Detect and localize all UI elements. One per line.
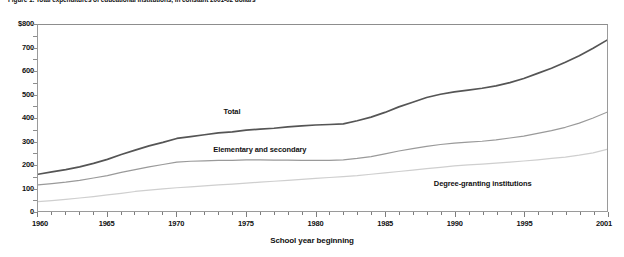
x-axis-tick-minor — [538, 212, 539, 215]
x-axis-tick-label: 1990 — [447, 219, 463, 228]
x-axis-tick-minor — [51, 212, 52, 215]
x-axis-tick-minor — [93, 212, 94, 215]
x-axis-tick-minor — [483, 212, 484, 215]
x-axis-tick-minor — [218, 212, 219, 215]
y-axis-tick-label: 500 — [0, 91, 34, 99]
x-axis-tick-minor — [274, 212, 275, 215]
x-axis-tick-major — [107, 212, 108, 217]
y-axis-tick-label: 300 — [0, 138, 34, 146]
y-axis-tick-label: 400 — [0, 114, 34, 122]
x-axis-tick-minor — [288, 212, 289, 215]
x-axis-tick-minor — [190, 212, 191, 215]
y-axis-tick-label: 0 — [0, 208, 34, 216]
x-axis-tick-label: 1970 — [168, 219, 184, 228]
x-axis-tick-minor — [497, 212, 498, 215]
x-axis-tick-major — [37, 212, 38, 217]
figure-container: Figure 1. Total expenditures of educatio… — [0, 0, 624, 257]
x-axis-tick-minor — [121, 212, 122, 215]
x-axis-tick-minor — [232, 212, 233, 215]
x-axis-tick-minor — [204, 212, 205, 215]
series-label: Total — [224, 107, 241, 116]
x-axis-tick-label: 1965 — [99, 219, 115, 228]
x-axis-tick-major — [455, 212, 456, 217]
x-axis-tick-label: 1995 — [516, 219, 532, 228]
figure-caption: Figure 1. Total expenditures of educatio… — [8, 0, 255, 4]
x-axis-tick-minor — [343, 212, 344, 215]
x-axis-tick-label: 1980 — [308, 219, 324, 228]
x-axis-tick-minor — [162, 212, 163, 215]
x-axis-tick-minor — [469, 212, 470, 215]
x-axis-tick-minor — [511, 212, 512, 215]
series-line — [38, 40, 607, 174]
y-axis-tick-label: 700 — [0, 44, 34, 52]
series-line — [38, 149, 607, 201]
series-line — [38, 112, 607, 185]
x-axis-tick-minor — [302, 212, 303, 215]
x-axis-tick-label: 2001 — [596, 219, 612, 228]
x-axis-tick-label: 1975 — [238, 219, 254, 228]
y-axis-tick-label: 100 — [0, 185, 34, 193]
x-axis-tick-major — [176, 212, 177, 217]
x-axis-tick-minor — [79, 212, 80, 215]
x-axis-tick-minor — [148, 212, 149, 215]
x-axis-tick-label: 1985 — [377, 219, 393, 228]
x-axis-tick-minor — [552, 212, 553, 215]
y-axis-tick-label: 600 — [0, 67, 34, 75]
x-axis-tick-minor — [329, 212, 330, 215]
x-axis-tick-major — [246, 212, 247, 217]
y-axis-tick-label: $800 — [0, 20, 34, 28]
x-axis-tick-major — [608, 212, 609, 217]
x-axis-tick-major — [385, 212, 386, 217]
x-axis-tick-minor — [427, 212, 428, 215]
x-axis-tick-minor — [580, 212, 581, 215]
x-axis-tick-minor — [566, 212, 567, 215]
x-axis-tick-minor — [594, 212, 595, 215]
x-axis-tick-minor — [371, 212, 372, 215]
series-label: Degree-granting institutions — [434, 179, 532, 188]
x-axis-tick-minor — [134, 212, 135, 215]
x-axis-tick-label: 1960 — [32, 219, 48, 228]
x-axis-tick-minor — [260, 212, 261, 215]
y-axis-labels: $8007006005004003002001000 — [0, 0, 34, 257]
x-axis-title: School year beginning — [0, 236, 624, 245]
y-axis-tick-label: 200 — [0, 161, 34, 169]
x-axis-tick-major — [316, 212, 317, 217]
x-axis-tick-minor — [357, 212, 358, 215]
x-axis-tick-major — [524, 212, 525, 217]
series-label: Elementary and secondary — [213, 145, 306, 154]
x-axis-tick-minor — [65, 212, 66, 215]
x-axis-tick-minor — [441, 212, 442, 215]
x-axis-tick-minor — [399, 212, 400, 215]
x-axis-tick-minor — [413, 212, 414, 215]
